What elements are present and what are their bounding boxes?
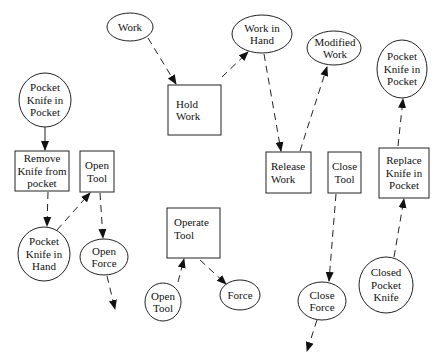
edge-hold-to-workinhand	[222, 52, 248, 77]
edge-workinhand-to-release	[264, 54, 281, 151]
close-force-node: Close Force	[298, 282, 346, 320]
pocket-knife-in-pocket-right-node: Pocket Knife in Pocket	[377, 40, 427, 98]
edge-openforce-out	[107, 276, 115, 309]
pocket-knife-in-pocket-left-node: Pocket Knife in Pocket	[19, 73, 71, 127]
open-tool-box-node: Open Tool	[80, 151, 114, 192]
process-diagram: Work Work in Hand Modified Work Pocket K…	[0, 0, 440, 354]
modified-work-node: Modified Work	[307, 31, 363, 65]
edge-closeforce-out	[307, 320, 317, 351]
edge-closedpk-to-replace	[394, 199, 404, 257]
edge-replace-to-pkpocket	[398, 99, 403, 146]
remove-knife-node: Remove Knife from pocket	[15, 151, 69, 191]
close-tool-box-node: Close Tool	[328, 152, 361, 193]
edge-release-to-modified	[300, 67, 327, 151]
open-tool-ellipse-node: Open Tool	[145, 283, 181, 321]
open-force-node: Open Force	[80, 239, 128, 275]
edge-work-to-hold	[148, 38, 176, 84]
edge-opentool-ellipse-to-operate	[178, 259, 184, 282]
edge-remove-to-pkhand	[47, 192, 48, 226]
edge-opentool-to-openforce	[100, 193, 103, 238]
hold-work-node: Hold Work	[168, 85, 221, 135]
pocket-knife-in-hand-node: Pocket Knife in Hand	[18, 227, 70, 281]
work-in-hand-node: Work in Hand	[232, 16, 292, 52]
replace-knife-node: Replace Knife in Pocket	[379, 148, 429, 198]
edge-pkhand-to-opentool	[57, 193, 90, 230]
release-work-node: Release Work	[266, 152, 311, 193]
force-node: Force	[220, 280, 260, 310]
operate-tool-node: Operate Tool	[167, 208, 220, 258]
edge-closetool-to-closeforce	[329, 194, 336, 281]
closed-pocket-knife-node: Closed Pocket Knife	[359, 257, 413, 313]
work-node: Work	[107, 13, 153, 41]
